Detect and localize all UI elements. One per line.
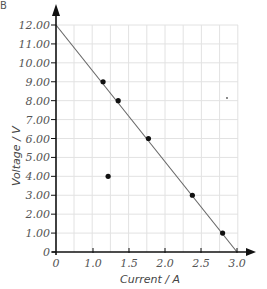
y-tick-label: 8.00 — [26, 95, 51, 108]
stray-mark — [226, 97, 228, 99]
figure-label: B — [0, 0, 7, 11]
axes — [52, 4, 256, 256]
data-point — [106, 174, 111, 179]
y-tick-label: 12.00 — [19, 19, 51, 32]
data-point — [220, 230, 225, 235]
x-tick-label: 1.5 — [120, 257, 138, 270]
y-tick-label: 9.00 — [26, 76, 51, 89]
y-tick-label: 7.00 — [26, 114, 51, 127]
x-tick-label: 1.0 — [84, 257, 102, 270]
y-tick-label: 4.00 — [25, 170, 51, 183]
y-tick-label: 5.00 — [26, 151, 51, 164]
data-point — [116, 98, 121, 103]
x-tick-label: 2.0 — [155, 257, 174, 270]
x-axis-title: Current / A — [120, 273, 180, 286]
y-tick-label: 11.00 — [19, 38, 51, 51]
x-tick-label: 0 — [53, 257, 60, 270]
x-tick-label: 3.0 — [228, 257, 246, 270]
x-tick-label: 2.5 — [191, 257, 210, 270]
data-point — [190, 193, 195, 198]
y-tick-label: 0 — [43, 246, 50, 259]
voltage-current-chart: B 01.002.003.004.005.006.007.008.009.001… — [0, 0, 267, 289]
y-tick-label: 6.00 — [26, 133, 51, 146]
y-axis-ticks: 01.002.003.004.005.006.007.008.009.0010.… — [19, 19, 57, 259]
data-point — [146, 136, 151, 141]
data-point — [100, 79, 105, 84]
y-tick-label: 3.00 — [26, 189, 51, 202]
y-tick-label: 1.00 — [26, 227, 51, 240]
y-axis-title: Voltage / V — [10, 125, 23, 186]
y-tick-label: 10.00 — [19, 57, 51, 70]
y-tick-label: 2.00 — [25, 208, 51, 221]
